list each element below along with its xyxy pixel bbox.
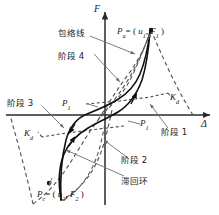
peak-negative-subscript: c (43, 195, 46, 202)
stage-2-label: 阶段 2 (121, 156, 147, 165)
kd-left-tick (38, 132, 42, 137)
p-upper-subscript: 1 (68, 104, 71, 111)
kd-right-segment (86, 93, 168, 104)
p-lower-P: P (140, 118, 146, 128)
p-upper-P: P (62, 98, 68, 108)
hysteresis-diagram: F Δ 包络线 阶段 4 阶段 3 阶段 1 阶段 2 滞回环 Pa= ( u1… (0, 0, 219, 215)
kd-right-label: Kd (170, 93, 179, 104)
p-lower-subscript: 1 (146, 124, 149, 131)
envelope-label: 包络线 (58, 29, 85, 38)
peak-positive-subscript: a (123, 32, 126, 39)
hysteresis-loop-label: 滞回环 (121, 177, 148, 186)
leader-envelope (90, 36, 135, 54)
leader-p-lower (128, 121, 140, 124)
peak-positive-equals: = ( (126, 26, 139, 36)
peak-positive-u-subscript: 1 (143, 32, 146, 39)
y-axis-label: F (94, 4, 100, 14)
leader-stage1 (150, 104, 168, 128)
x-axis-label: Δ (201, 119, 207, 129)
leader-stage4 (94, 54, 120, 82)
leader-p-upper (88, 104, 98, 107)
kd-left-subscript: d (30, 134, 33, 141)
p-lower-label: P1 (140, 119, 149, 130)
peak-negative-equals: = ( (45, 189, 58, 199)
p-upper-label: P1 (62, 99, 71, 110)
peak-negative-P: P (37, 189, 43, 199)
kd-right-subscript: d (176, 98, 179, 105)
leader-stage3 (42, 106, 64, 128)
envelope-curve-group (10, 30, 193, 204)
peak-negative-close: ) (79, 189, 84, 199)
stage-1-label: 阶段 1 (161, 128, 187, 137)
flow-arrow-up-left (69, 138, 74, 146)
peak-negative-label: Pc= ( u2, F2 ) (37, 190, 84, 201)
kd-left-label: Kd (24, 129, 33, 140)
peak-negative-u-subscript: 2 (62, 195, 65, 202)
peak-positive-label: Pa= ( u1, F1 ) (117, 27, 164, 38)
peak-positive-close: ) (159, 26, 164, 36)
peak-positive-F-subscript: 1 (156, 32, 159, 39)
stage-3-label: 阶段 3 (7, 99, 33, 108)
peak-positive-F: F (150, 26, 156, 36)
stage-4-label: 阶段 4 (58, 52, 84, 61)
peak-positive-P: P (117, 26, 123, 36)
peak-positive-u: u (138, 26, 143, 36)
peak-negative-F-subscript: 2 (75, 195, 78, 202)
leader-hysteresis-loop (66, 150, 124, 176)
